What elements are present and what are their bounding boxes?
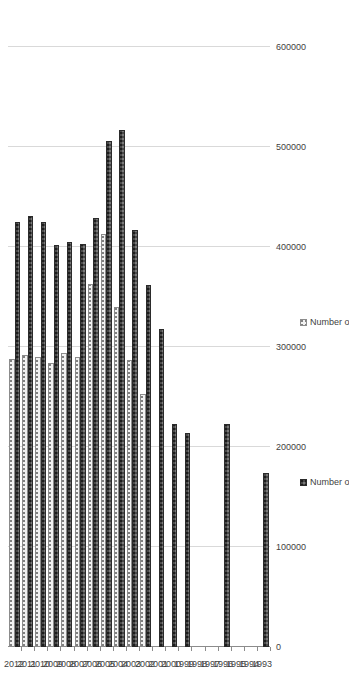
gridline — [8, 346, 270, 347]
legend-swatch-icon-2 — [300, 319, 307, 326]
bar-group — [9, 47, 20, 647]
bar-group — [219, 47, 230, 647]
bar-1996-series0 — [224, 424, 230, 647]
gridline — [8, 46, 270, 47]
bar-2000-series0 — [172, 424, 178, 647]
category-axis-tick — [231, 647, 232, 651]
gridline — [8, 146, 270, 147]
bar-2012-series1 — [9, 359, 15, 647]
bar-2007-series1 — [75, 357, 81, 647]
legend-label: Number of convictions without drunken dr… — [310, 317, 349, 327]
bar-2009-series1 — [48, 363, 54, 647]
bar-2011-series1 — [22, 355, 28, 647]
bar-2007-series0 — [80, 244, 86, 647]
plot-area: 0100000200000300000400000500000600000199… — [8, 47, 270, 647]
bar-2011-series0 — [28, 216, 34, 647]
category-axis-label-2012: 2012 — [4, 659, 24, 669]
bar-group — [166, 47, 177, 647]
bar-group — [101, 47, 112, 647]
bar-2002-series1 — [140, 394, 146, 647]
bar-group — [22, 47, 33, 647]
category-axis-tick — [178, 647, 179, 651]
category-axis-tick — [47, 647, 48, 651]
bar-group — [140, 47, 151, 647]
bar-group — [179, 47, 190, 647]
legend-item-1[interactable]: Number of convictions — [300, 477, 349, 487]
category-axis-tick — [191, 647, 192, 651]
bar-2004-series1 — [114, 307, 120, 647]
bar-group — [88, 47, 99, 647]
legend-swatch-icon-1 — [300, 479, 307, 486]
legend-item-2[interactable]: Number of convictions without drunken dr… — [300, 317, 349, 327]
bar-group — [258, 47, 269, 647]
category-axis-tick — [113, 647, 114, 651]
category-axis-tick — [205, 647, 206, 651]
category-axis-tick — [218, 647, 219, 651]
chart-canvas: 0100000200000300000400000500000600000199… — [0, 0, 349, 695]
bar-1999-series0 — [185, 433, 191, 647]
bar-2008-series0 — [67, 242, 73, 647]
category-axis-tick — [21, 647, 22, 651]
legend-label: Number of convictions — [310, 477, 349, 487]
bar-2001-series0 — [159, 329, 165, 647]
category-axis-tick — [74, 647, 75, 651]
bar-2004-series0 — [119, 130, 125, 647]
category-axis-tick — [139, 647, 140, 651]
category-axis-tick — [100, 647, 101, 651]
bar-2009-series0 — [54, 245, 60, 647]
category-axis-tick — [165, 647, 166, 651]
bar-group — [192, 47, 203, 647]
category-axis-tick — [126, 647, 127, 651]
gridline — [8, 246, 270, 247]
chart-legend: Number of convictionsNumber of convictio… — [300, 47, 340, 647]
value-axis-tick-label: 0 — [276, 642, 281, 652]
category-axis-tick — [244, 647, 245, 651]
bar-group — [48, 47, 59, 647]
bar-2008-series1 — [61, 353, 67, 647]
gridline — [8, 446, 270, 447]
bar-2003-series0 — [132, 230, 138, 647]
category-axis-tick — [60, 647, 61, 651]
bar-1993-series0 — [263, 473, 269, 647]
bar-2012-series0 — [15, 222, 21, 647]
bar-2002-series0 — [146, 285, 152, 647]
bar-2006-series1 — [88, 284, 94, 647]
bar-group — [232, 47, 243, 647]
bar-group — [245, 47, 256, 647]
bar-group — [75, 47, 86, 647]
bar-2005-series0 — [106, 141, 112, 647]
category-axis-tick — [34, 647, 35, 651]
bar-group — [127, 47, 138, 647]
bar-2010-series1 — [35, 357, 41, 647]
gridline — [8, 546, 270, 547]
category-axis-tick — [270, 647, 271, 651]
bar-group — [35, 47, 46, 647]
bar-2005-series1 — [101, 234, 107, 647]
bar-group — [206, 47, 217, 647]
bar-2010-series0 — [41, 222, 47, 647]
bar-2003-series1 — [127, 360, 133, 647]
category-axis-tick — [152, 647, 153, 651]
category-axis-tick — [87, 647, 88, 651]
bar-group — [153, 47, 164, 647]
bar-group — [61, 47, 72, 647]
bar-group — [114, 47, 125, 647]
chart-rotation-wrapper: 0100000200000300000400000500000600000199… — [0, 0, 349, 695]
category-axis-tick — [257, 647, 258, 651]
bar-2006-series0 — [93, 218, 99, 647]
